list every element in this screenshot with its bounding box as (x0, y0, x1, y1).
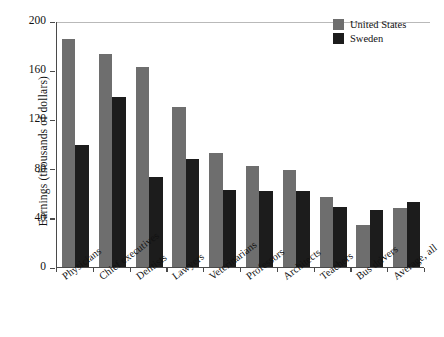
y-tick-label: 120 (0, 112, 46, 124)
y-tick-mark (50, 71, 55, 72)
bar-sweden (75, 145, 89, 267)
x-tick-mark (130, 268, 131, 272)
bar-united-states (320, 197, 334, 267)
legend-label: United States (350, 19, 406, 30)
x-tick-mark (424, 268, 425, 272)
y-tick-label: 40 (0, 211, 46, 223)
y-tick-label: 160 (0, 63, 46, 75)
bar-chart: Earnings (thousands of dollars) 04080120… (0, 0, 444, 337)
bar-group (246, 21, 273, 267)
bar-sweden (112, 97, 126, 267)
x-tick-mark (387, 268, 388, 272)
bar-group (320, 21, 347, 267)
x-tick-mark (314, 268, 315, 272)
y-tick-mark (50, 218, 55, 219)
bar-united-states (62, 39, 76, 267)
x-tick-mark (350, 268, 351, 272)
y-tick-mark (50, 169, 55, 170)
legend-label: Sweden (350, 33, 383, 44)
bar-group (62, 21, 89, 267)
bar-group (172, 21, 199, 267)
x-tick-mark (166, 268, 167, 272)
bar-united-states (356, 225, 370, 267)
bar-group (356, 21, 383, 267)
bar-united-states (393, 208, 407, 267)
legend: United StatesSweden (333, 19, 406, 47)
bar-united-states (99, 54, 113, 267)
x-tick-mark (93, 268, 94, 272)
x-tick-mark (240, 268, 241, 272)
bar-united-states (209, 153, 223, 267)
bar-united-states (172, 107, 186, 267)
x-tick-mark (56, 268, 57, 272)
legend-swatch-icon (333, 33, 344, 44)
y-tick-mark (50, 120, 55, 121)
bar-group (283, 21, 310, 267)
bar-group (136, 21, 163, 267)
plot-area (56, 22, 424, 268)
legend-item: Sweden (333, 33, 406, 44)
legend-item: United States (333, 19, 406, 30)
x-tick-mark (203, 268, 204, 272)
y-tick-label: 200 (0, 14, 46, 26)
y-tick-mark (50, 268, 55, 269)
bar-group (393, 21, 420, 267)
x-tick-mark (277, 268, 278, 272)
y-tick-label: 80 (0, 162, 46, 174)
bar-group (209, 21, 236, 267)
legend-swatch-icon (333, 19, 344, 30)
y-tick-label: 0 (0, 260, 46, 272)
bar-group (99, 21, 126, 267)
y-tick-mark (50, 22, 55, 23)
